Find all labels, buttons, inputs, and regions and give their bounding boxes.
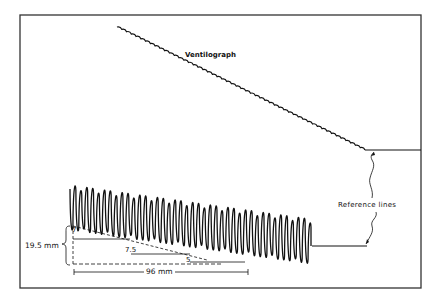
ventilograph-trace	[117, 27, 365, 150]
marker-start-label: 7	[72, 226, 76, 234]
figure-canvas	[0, 0, 438, 302]
reference-pointer-icon	[366, 152, 376, 244]
brace-icon	[62, 226, 70, 265]
envelope-line	[73, 226, 207, 260]
oscillation-trace	[70, 186, 311, 263]
vertical-dimension-label: 19.5 mm	[25, 241, 59, 250]
marker-end-label: 5	[186, 256, 190, 264]
reference-lines-label: Reference lines	[338, 201, 396, 209]
horizontal-dimension-label: 96 mm	[144, 267, 175, 276]
ventilograph-label: Ventilograph	[185, 51, 236, 59]
ventilograph-figure: Ventilograph Reference lines 19.5 mm 96 …	[0, 0, 438, 302]
marker-mid-label: 7.5	[125, 246, 136, 254]
